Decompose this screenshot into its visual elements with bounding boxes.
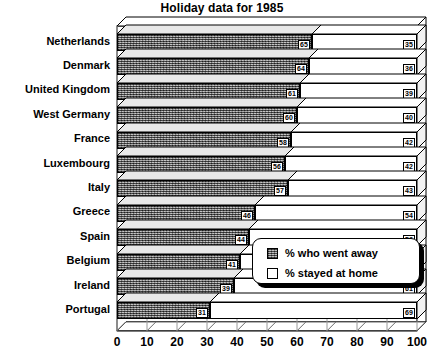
category-label-italy: Italy	[0, 181, 110, 193]
category-label-united-kingdom: United Kingdom	[0, 83, 110, 95]
legend-label: % stayed at home	[285, 267, 378, 279]
category-label-spain: Spain	[0, 230, 110, 242]
x-tick-label: 100	[407, 336, 427, 349]
category-label-denmark: Denmark	[0, 59, 110, 71]
category-label-ireland: Ireland	[0, 279, 110, 291]
legend-swatch-home-icon	[267, 268, 278, 279]
x-tick-label: 20	[170, 336, 183, 349]
x-tick-label: 60	[290, 336, 303, 349]
bar-value-home: 69	[403, 308, 415, 318]
legend-item: % who went away	[267, 247, 378, 259]
bar-value-away: 31	[196, 308, 208, 318]
category-label-belgium: Belgium	[0, 254, 110, 266]
legend-label: % who went away	[285, 247, 378, 259]
chart-title: Holiday data for 1985	[0, 1, 444, 15]
x-tick-label: 10	[140, 336, 153, 349]
x-tick-label: 40	[230, 336, 243, 349]
bar-segment-home	[210, 302, 417, 319]
category-label-france: France	[0, 132, 110, 144]
chart-container: Holiday data for 1985 NetherlandsDenmark…	[0, 0, 444, 356]
category-label-west-germany: West Germany	[0, 108, 110, 120]
x-tick-label: 0	[114, 336, 121, 349]
bar-row: 3169	[117, 302, 417, 319]
category-label-netherlands: Netherlands	[0, 35, 110, 47]
x-tick-label: 50	[260, 336, 273, 349]
x-tick-label: 30	[200, 336, 213, 349]
legend-swatch-away-icon	[267, 248, 278, 259]
x-tick-label: 90	[380, 336, 393, 349]
legend-box: % who went away% stayed at home	[252, 238, 420, 284]
x-tick-label: 80	[350, 336, 363, 349]
x-tick-label: 70	[320, 336, 333, 349]
category-label-luxembourg: Luxembourg	[0, 157, 110, 169]
category-label-greece: Greece	[0, 205, 110, 217]
category-label-portugal: Portugal	[0, 303, 110, 315]
legend-item: % stayed at home	[267, 267, 378, 279]
